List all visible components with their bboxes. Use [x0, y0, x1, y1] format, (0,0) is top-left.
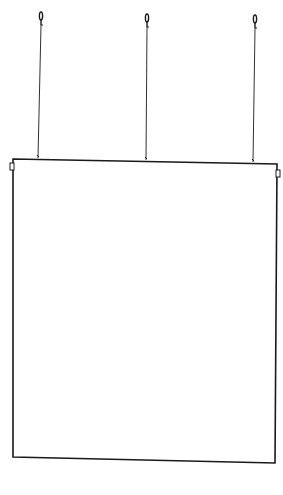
- wire-clip-icon: [145, 157, 147, 159]
- panel-tab-left: [10, 163, 14, 170]
- wire-clip-icon: [252, 159, 254, 161]
- wire-3: [253, 28, 255, 162]
- wire-2: [146, 27, 147, 160]
- hooks: [39, 12, 257, 28]
- suspension-wires: [37, 25, 255, 162]
- wire-1: [38, 25, 41, 158]
- panel-outline: [13, 159, 277, 463]
- hook-icon: [39, 12, 43, 25]
- hanging-panel-diagram: [0, 0, 283, 495]
- panel-tab-right: [276, 170, 280, 177]
- hook-icon: [253, 15, 257, 28]
- wire-clip-icon: [37, 155, 39, 157]
- hook-icon: [145, 14, 149, 27]
